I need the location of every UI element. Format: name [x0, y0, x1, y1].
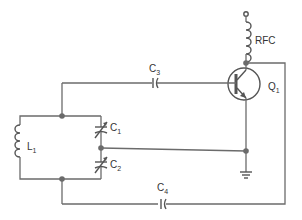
rfc-label: RFC	[255, 35, 276, 46]
transistor-q1-icon	[228, 63, 260, 100]
c4-label: C4	[157, 182, 168, 195]
c1-label: C1	[110, 122, 121, 135]
ground-icon	[240, 172, 252, 178]
q1-label: Q1	[268, 81, 280, 94]
rfc-inductor-icon	[246, 22, 251, 62]
c2-label: C2	[110, 159, 121, 172]
inductor-l1-icon	[15, 125, 20, 157]
divider-to-emitter-wire	[101, 148, 246, 151]
capacitor-c4-icon	[158, 199, 166, 209]
supply-terminal	[244, 12, 248, 16]
circuit-diagram: RFC Q1 C3 L1 C1	[0, 0, 302, 220]
l1-label: L1	[27, 141, 37, 154]
c3-label: C3	[149, 63, 160, 76]
tank-bottom-wire	[20, 157, 101, 179]
